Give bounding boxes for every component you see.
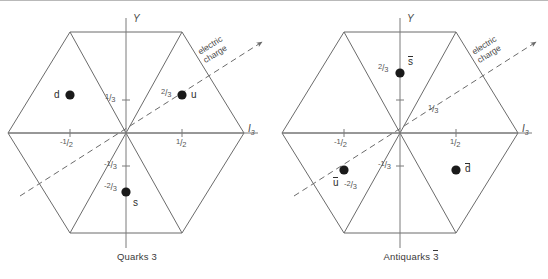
quark-s-dot [121, 187, 130, 196]
spoke-upper-left [70, 32, 126, 133]
antiquark-u-bar-dot [339, 165, 348, 174]
antiquarks-caption: Antiquarks 3 [274, 251, 548, 262]
spoke-upper-right [126, 32, 182, 133]
antiquark-s-bar-charge: 2/3 [378, 63, 388, 74]
antiquark-s-bar-dot [395, 68, 404, 77]
quark-u-dot [177, 90, 186, 99]
quark-weight-diagram-figure: Y I3 1/3 -1/3 -1/2 1/2 d u [0, 0, 548, 279]
y-tick-label-minus-one-third: -1/3 [104, 160, 117, 171]
electric-charge-arrow [294, 42, 536, 196]
panel-quarks: Y I3 1/3 -1/3 -1/2 1/2 d u [0, 0, 274, 279]
spoke-upper-left [344, 32, 400, 133]
quarks-caption: Quarks 3 [0, 251, 274, 262]
y-axis-label: Y [133, 14, 140, 24]
quark-u-label: u [191, 90, 197, 100]
electric-charge-arrow [20, 42, 262, 196]
i3-axis-label: I3 [522, 124, 529, 136]
i3-tick-label-plus-half: 1/2 [450, 138, 460, 149]
y-axis-label: Y [407, 14, 414, 24]
i3-tick-label-minus-half: -1/2 [334, 138, 347, 149]
spoke-lower-right [400, 133, 456, 233]
antiquarks-diagram-graphic [274, 0, 548, 279]
spoke-lower-right [126, 133, 182, 233]
quarks-diagram-graphic [0, 0, 274, 279]
antiquark-u-bar-label: u [333, 178, 339, 188]
i3-tick-label-minus-half: -1/2 [60, 138, 73, 149]
antiquark-d-bar-dot [451, 165, 460, 174]
i3-axis-label: I3 [248, 124, 255, 136]
antiquark-s-bar-label: s [408, 57, 413, 67]
y-tick-label-plus-one-third: 1/3 [428, 104, 438, 115]
antiquark-u-bar-charge: -2/3 [344, 180, 357, 191]
quark-s-label: s [133, 198, 138, 208]
y-tick-label-plus-one-third: 1/3 [105, 93, 115, 104]
quark-d-dot [65, 90, 74, 99]
quark-s-charge: -2/3 [104, 182, 117, 193]
antiquark-d-bar-label: d [465, 164, 471, 174]
y-tick-label-minus-one-third: -1/3 [378, 160, 391, 171]
spoke-upper-right [400, 32, 456, 133]
quark-u-charge: 2/3 [161, 88, 171, 99]
i3-tick-label-plus-half: 1/2 [176, 138, 186, 149]
panel-antiquarks: Y I3 1/3 -1/3 -1/2 1/2 s 2/3 [274, 0, 548, 279]
spoke-lower-left [70, 133, 126, 233]
quark-d-label: d [54, 90, 60, 100]
